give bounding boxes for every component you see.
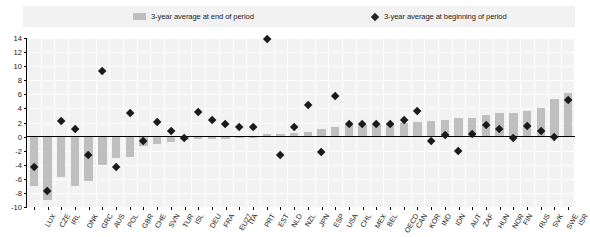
marker-irl[interactable] bbox=[57, 117, 66, 126]
y-axis-label: 0 bbox=[18, 132, 22, 141]
gridline-vertical bbox=[178, 38, 179, 207]
marker-usa[interactable] bbox=[331, 91, 340, 100]
gridline-vertical bbox=[342, 38, 343, 207]
x-axis-label-est: EST bbox=[276, 212, 291, 229]
x-axis-tick bbox=[61, 207, 62, 210]
marker-fra[interactable] bbox=[207, 116, 216, 125]
x-axis-label-fra: FRA bbox=[221, 212, 236, 229]
gridline-vertical bbox=[356, 38, 357, 207]
legend-entry-diamonds: 3-year average at beginning of period bbox=[371, 6, 507, 27]
bar-ind[interactable] bbox=[427, 121, 435, 136]
x-axis-label-che: CHE bbox=[153, 212, 168, 230]
gridline-vertical bbox=[301, 38, 302, 207]
x-axis-label-dnk: DNK bbox=[85, 212, 100, 230]
gridline-vertical bbox=[54, 38, 55, 207]
gridline-vertical bbox=[452, 38, 453, 207]
gridline-vertical bbox=[246, 38, 247, 207]
x-axis-label-rus: RUS bbox=[537, 212, 552, 230]
x-axis-label-pol: POL bbox=[125, 212, 140, 229]
bar-irl[interactable] bbox=[57, 137, 65, 178]
x-axis-tick bbox=[198, 207, 199, 210]
gridline-vertical bbox=[137, 38, 138, 207]
x-axis-label-ind: IND bbox=[439, 212, 453, 227]
marker-svn[interactable] bbox=[153, 118, 162, 127]
x-axis-tick bbox=[431, 207, 432, 210]
marker-est[interactable] bbox=[262, 34, 271, 43]
x-axis-label-hun: HUN bbox=[496, 212, 512, 230]
marker-nzl[interactable] bbox=[290, 123, 299, 132]
bar-lux[interactable] bbox=[30, 137, 38, 186]
x-axis-tick bbox=[486, 207, 487, 210]
x-axis-label-zaf: ZAF bbox=[481, 212, 496, 228]
bar-swatch-icon bbox=[133, 13, 146, 20]
bar-pol[interactable] bbox=[112, 137, 120, 159]
x-axis-tick bbox=[75, 207, 76, 210]
marker-aus[interactable] bbox=[98, 67, 107, 76]
gridline-vertical bbox=[68, 38, 69, 207]
marker-eu27[interactable] bbox=[221, 120, 230, 129]
bar-tur[interactable] bbox=[167, 137, 175, 143]
y-axis-label: -2 bbox=[15, 146, 22, 155]
y-axis-label: 4 bbox=[18, 104, 22, 113]
x-axis-label-isr: ISR bbox=[576, 212, 590, 227]
marker-isl[interactable] bbox=[180, 133, 189, 142]
marker-aut[interactable] bbox=[454, 147, 463, 156]
gridline-vertical bbox=[82, 38, 83, 207]
gridline-vertical bbox=[41, 38, 42, 207]
marker-dnk[interactable] bbox=[70, 124, 79, 133]
x-axis-label-aut: AUT bbox=[468, 212, 483, 229]
x-axis-label-aus: AUS bbox=[112, 212, 127, 229]
bar-aus[interactable] bbox=[98, 137, 106, 165]
bar-svn[interactable] bbox=[153, 137, 161, 145]
gridline-vertical bbox=[274, 38, 275, 207]
marker-ind[interactable] bbox=[427, 136, 436, 145]
legend-label-diamonds: 3-year average at beginning of period bbox=[384, 12, 507, 21]
x-axis-tick bbox=[554, 207, 555, 210]
marker-ita[interactable] bbox=[235, 123, 244, 132]
x-axis-tick bbox=[34, 207, 35, 210]
gridline-vertical bbox=[397, 38, 398, 207]
x-axis-label-deu: DEU bbox=[208, 212, 223, 230]
gridline-vertical bbox=[438, 38, 439, 207]
marker-nld[interactable] bbox=[276, 151, 285, 160]
x-axis-label-svk: SVK bbox=[550, 212, 565, 229]
bar-aut[interactable] bbox=[454, 118, 462, 136]
marker-pol[interactable] bbox=[112, 162, 121, 171]
gridline-vertical bbox=[205, 38, 206, 207]
bar-dnk[interactable] bbox=[71, 137, 79, 186]
gridline-vertical bbox=[328, 38, 329, 207]
x-axis-tick bbox=[226, 207, 227, 210]
legend-label-bars: 3-year average at end of period bbox=[151, 12, 254, 21]
x-axis-tick bbox=[500, 207, 501, 210]
x-axis-tick bbox=[513, 207, 514, 210]
gridline-vertical bbox=[219, 38, 220, 207]
x-axis-tick bbox=[459, 207, 460, 210]
chart-legend: 3-year average at end of period 3-year a… bbox=[23, 6, 575, 27]
y-axis: -10-8-6-4-202468101214 bbox=[0, 38, 27, 207]
gridline-vertical bbox=[424, 38, 425, 207]
gridline-vertical bbox=[574, 38, 575, 207]
x-axis-tick bbox=[89, 207, 90, 210]
bar-gbr[interactable] bbox=[126, 137, 134, 157]
zero-baseline bbox=[27, 136, 575, 137]
marker-prt[interactable] bbox=[249, 122, 258, 131]
x-axis-tick bbox=[445, 207, 446, 210]
gridline-vertical bbox=[150, 38, 151, 207]
gridline-vertical bbox=[123, 38, 124, 207]
marker-gbr[interactable] bbox=[125, 109, 134, 118]
gridline-vertical bbox=[465, 38, 466, 207]
gridline-vertical bbox=[534, 38, 535, 207]
marker-esp[interactable] bbox=[317, 148, 326, 157]
gridline-vertical bbox=[260, 38, 261, 207]
bar-kor[interactable] bbox=[413, 122, 421, 137]
x-axis-tick bbox=[390, 207, 391, 210]
gridline-vertical bbox=[164, 38, 165, 207]
gridline-vertical bbox=[233, 38, 234, 207]
x-axis-tick bbox=[267, 207, 268, 210]
marker-tur[interactable] bbox=[166, 126, 175, 135]
gridline-vertical bbox=[191, 38, 192, 207]
gridline-vertical bbox=[493, 38, 494, 207]
bar-swe[interactable] bbox=[550, 99, 558, 136]
x-axis-label-idn: IDN bbox=[453, 212, 467, 227]
x-axis-tick bbox=[308, 207, 309, 210]
